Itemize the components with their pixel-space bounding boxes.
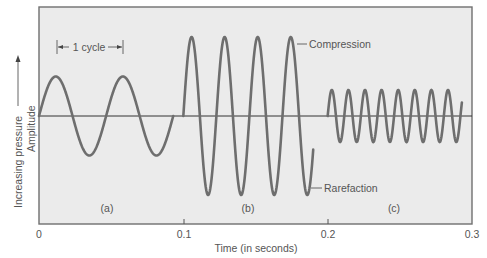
panel-label-a: (a) (101, 202, 114, 214)
panel-label-c: (c) (388, 202, 400, 214)
compression-label: Compression (309, 38, 371, 50)
rarefaction-label: Rarefaction (324, 182, 378, 194)
cycle-label: 1 cycle (73, 41, 106, 53)
y-axis-label-amplitude: Amplitude (25, 105, 37, 152)
tick-label-0.1: 0.1 (177, 228, 192, 240)
tick-label-0.3: 0.3 (465, 228, 480, 240)
tick-label-0: 0 (36, 228, 42, 240)
arrow-up-icon (16, 55, 21, 62)
panel-label-b: (b) (242, 202, 255, 214)
x-axis-label: Time (in seconds) (214, 242, 297, 254)
tick-label-0.2: 0.2 (321, 228, 336, 240)
sound-wave-chart: 0 0.1 0.2 0.3 Time (in seconds) Increasi… (0, 0, 487, 258)
y-axis-label-pressure: Increasing pressure (12, 116, 24, 208)
